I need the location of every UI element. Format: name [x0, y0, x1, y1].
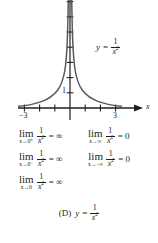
curve-label-fraction: 1 x2	[111, 38, 120, 56]
limit-denominator-exponent-5: 2	[42, 180, 45, 186]
caption-equals: =	[82, 208, 87, 218]
limit-expression-1: lim x→0⁺ 1 x2 = ∞	[19, 127, 62, 145]
limit-fraction-1: 1 x2	[37, 127, 46, 145]
limit-denominator-2: x2	[106, 137, 114, 145]
limit-fraction-3: 1 x2	[37, 150, 46, 168]
limit-denominator-1: x2	[37, 137, 45, 145]
x-axis	[18, 105, 143, 112]
limit-denominator-4: x2	[107, 160, 115, 168]
limit-denominator-exponent-3: 2	[42, 157, 45, 163]
limit-subscript-4: x→−∞	[88, 162, 103, 168]
limit-operator-group-3: lim x→0⁻	[19, 151, 34, 168]
limit-denominator-exponent-1: 2	[42, 134, 45, 140]
limit-operator-group-1: lim x→0⁺	[19, 128, 34, 145]
limit-fraction-5: 1 x2	[37, 173, 46, 191]
limit-result-3: = ∞	[49, 154, 63, 164]
figure-panel: x −3 3 1 y = 1 x2 lim x→0⁺ 1	[0, 0, 158, 243]
limit-subscript-3: x→0⁻	[19, 162, 33, 168]
limit-result-4: = 0	[118, 154, 130, 164]
curve-equation-label: y = 1 x2	[96, 38, 120, 56]
caption-denominator-exponent: 2	[95, 211, 98, 217]
limit-result-1: = ∞	[49, 131, 63, 141]
curve-label-denominator: x2	[111, 48, 119, 56]
caption-fraction: 1 x2	[90, 204, 99, 222]
limit-expression-3: lim x→0⁻ 1 x2 = ∞	[19, 150, 62, 168]
limit-subscript-1: x→0⁺	[19, 139, 33, 145]
limit-operator-group-4: lim x→−∞	[88, 151, 103, 168]
limit-expression-2: lim x→∞ 1 x2 = 0	[88, 127, 130, 145]
limit-denominator-exponent-2: 2	[111, 134, 114, 140]
curve-label-denominator-exponent: 2	[116, 45, 119, 51]
limit-subscript-5: x→0	[21, 185, 32, 191]
limit-operator-group-2: lim x→∞	[88, 128, 103, 145]
limit-fraction-2: 1 x2	[106, 127, 115, 145]
limit-fraction-4: 1 x2	[106, 150, 115, 168]
x-tick-label-three: 3	[113, 111, 117, 120]
limit-subscript-2: x→∞	[89, 139, 101, 145]
limit-expression-4: lim x→−∞ 1 x2 = 0	[88, 150, 130, 168]
graph-area: x −3 3 1 y = 1 x2	[0, 0, 158, 125]
figure-caption: (D) y = 1 x2	[0, 204, 158, 222]
caption-denominator: x2	[91, 214, 99, 222]
limit-result-2: = 0	[118, 131, 130, 141]
curve-label-equals: =	[103, 42, 108, 52]
limit-result-5: = ∞	[49, 177, 63, 187]
limit-denominator-5: x2	[37, 183, 45, 191]
y-tick-label-one: 1	[62, 86, 66, 95]
limit-denominator-exponent-4: 2	[111, 157, 114, 163]
curve-label-lhs: y	[96, 42, 100, 52]
x-tick-label-negative-three: −3	[19, 111, 28, 120]
limit-expressions: lim x→0⁺ 1 x2 = ∞ lim x→∞ 1 x2 = 0	[0, 125, 158, 198]
limit-denominator-3: x2	[37, 160, 45, 168]
limit-operator-group-5: lim x→0	[19, 174, 34, 191]
caption-identifier: (D)	[59, 208, 72, 218]
curve-left-branch	[19, 0, 69, 106]
caption-lhs: y	[75, 208, 79, 218]
x-axis-label: x	[146, 102, 150, 111]
limit-expression-5: lim x→0 1 x2 = ∞	[19, 173, 62, 191]
graph-svg	[0, 0, 158, 125]
